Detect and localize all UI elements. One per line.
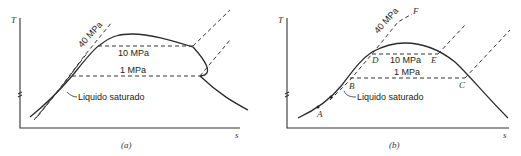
point-label-e: E (430, 55, 437, 65)
point-label-f: F (412, 6, 419, 16)
y-axis-label-b: T (278, 15, 284, 25)
caption-a: (a) (121, 140, 132, 150)
label-10mpa-b: 10 MPa (390, 55, 421, 65)
caption-b: (b) (389, 140, 400, 150)
point-label-c: C (459, 80, 466, 90)
panel-a: T s (a) 40 MPa 10 MPa 1 MPa Liquido satu… (11, 10, 248, 150)
y-axis-label-a: T (11, 15, 17, 25)
isobar-10mpa-superheat-a (193, 10, 230, 46)
annotation-leader-a (67, 92, 77, 97)
isobar-1mpa-superheat-b (465, 30, 510, 78)
point-label-d: D (371, 55, 379, 65)
isobar-10mpa-superheat-b (438, 24, 466, 54)
panel-b: T s (b) 40 MPa 10 MPa 1 MPa A B C D E F … (278, 6, 510, 150)
point-label-a: A (316, 109, 323, 119)
point-label-b: B (349, 81, 355, 91)
ts-diagrams: T s (a) 40 MPa 10 MPa 1 MPa Liquido satu… (0, 0, 521, 156)
x-axis-label-b: s (503, 130, 507, 140)
isobar-1mpa-superheat-a (200, 40, 230, 76)
annotation-b: Liquido saturado (357, 92, 424, 102)
label-1mpa-a: 1 MPa (120, 65, 146, 75)
label-1mpa-b: 1 MPa (394, 67, 420, 77)
annotation-a: Liquido saturado (78, 92, 145, 102)
annotation-leader-b (344, 91, 356, 97)
point-marker-2 (330, 96, 333, 99)
x-axis-label-a: s (235, 130, 239, 140)
label-10mpa-a: 10 MPa (118, 48, 149, 58)
label-40mpa-b: 40 MPa (372, 6, 400, 36)
